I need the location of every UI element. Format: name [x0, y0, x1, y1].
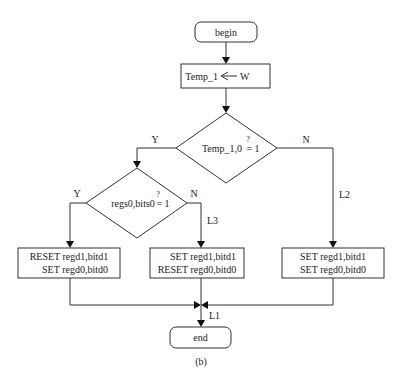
box-left-line1: RESET regd1,bitd1 — [30, 251, 109, 262]
begin-label: begin — [215, 27, 237, 38]
edge-d2-yes — [70, 203, 86, 242]
figure-caption: (b) — [195, 356, 207, 368]
edge-d2-no — [187, 203, 201, 242]
label-L1: L1 — [209, 310, 220, 321]
box-middle-line1: SET regd1,bitd1 — [170, 251, 236, 262]
label-L3: L3 — [207, 215, 218, 226]
arrowhead — [66, 241, 74, 248]
assign-label-left: Temp_1 — [185, 71, 218, 82]
edge-left-merge — [70, 278, 196, 305]
flowchart: begin Temp_1 W Temp_1,0 ? = 1 Y N L2 reg… — [0, 0, 406, 385]
assign-label-right: W — [240, 71, 250, 82]
arrowhead — [222, 57, 230, 64]
arrowhead — [194, 301, 201, 309]
label-L2: L2 — [339, 189, 350, 200]
edge-d1-no — [277, 148, 333, 242]
arrowhead — [222, 106, 230, 113]
edge-right-merge — [206, 278, 333, 305]
arrowhead — [197, 320, 205, 327]
label-d1-no: N — [302, 134, 309, 145]
arrowhead — [197, 241, 205, 248]
decision2-rhs: = 1 — [156, 198, 169, 209]
end-label: end — [193, 332, 207, 343]
box-middle-line2: RESET regd0,bitd0 — [158, 264, 237, 275]
box-left-line2: SET regd0,bitd0 — [42, 264, 108, 275]
edge-d1-yes — [137, 148, 176, 162]
label-d1-yes: Y — [151, 134, 158, 145]
label-d2-yes: Y — [73, 188, 80, 199]
decision2-label: regs0,bits0 — [111, 198, 155, 209]
arrowhead — [329, 241, 337, 248]
box-right-line1: SET regd1,bitd1 — [300, 251, 366, 262]
decision1-rhs: = 1 — [246, 143, 259, 154]
decision1-label: Temp_1,0 — [202, 143, 242, 154]
arrowhead — [201, 301, 208, 309]
label-d2-no: N — [190, 188, 197, 199]
box-right-line2: SET regd0,bitd0 — [300, 264, 366, 275]
arrowhead — [133, 161, 141, 168]
